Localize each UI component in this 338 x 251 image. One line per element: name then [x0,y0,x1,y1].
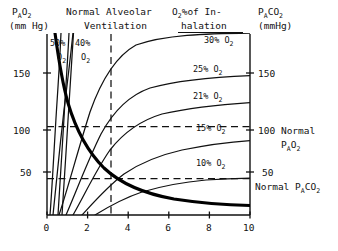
x-ticklabel-10: 10 [243,222,255,233]
label-25-percent-o2: 25% O2 [193,64,223,77]
left-ticklabel-150: 150 [13,68,30,79]
alveolar-gas-chart: Normal Alveolar Ventilation O2%of In- ha… [0,0,338,251]
curve-10-percent-o2 [95,178,250,215]
left-axis-units: (mm Hg) [9,20,49,31]
right-axis-label-paco2: PACO2 [258,6,283,20]
x-ticklabel-4: 4 [125,222,131,233]
right-annotations: 100 Normal PAO2 50 Normal PACO2 [255,125,320,195]
curve-labels: 50% O2 40% O2 30% O2 25% O2 21% O2 15% O… [50,35,234,171]
label-10-percent-o2: 10% O2 [196,158,226,171]
left-axis-title: PAO2 (mm Hg) [9,6,49,31]
right-ticklabel-150: 150 [258,68,275,79]
header-normal-alveolar: Normal Alveolar [66,6,152,17]
chart-header: Normal Alveolar Ventilation O2%of In- ha… [66,6,243,33]
label-40-percent-o2: 40% [75,38,90,48]
annotation-normal-pao2-line1: 100 Normal [258,125,315,136]
label-15-percent-o2: 15% O2 [196,123,226,136]
header-halation: halation [181,20,227,31]
header-o2-inhalation: O2%of In- [172,6,222,20]
label-21-percent-o2: 21% O2 [193,91,223,104]
header-ventilation: Ventilation [84,20,147,31]
label-50-percent-o2: 50% [50,38,65,48]
right-axis-title: PACO2 (mmHg) [258,6,292,31]
right-ticklabel-50: 50 [262,167,274,178]
right-axis-units: (mmHg) [258,20,292,31]
left-ticklabel-50: 50 [20,167,32,178]
x-ticklabel-6: 6 [165,222,171,233]
label-30-percent-o2: 30% O2 [204,35,234,48]
left-axis-ticks: 150 100 50 [13,68,51,178]
annotation-normal-paco2: Normal PACO2 [255,181,320,195]
x-ticklabel-0: 0 [44,222,50,233]
label-40-percent-o2-sub: O2 [81,52,90,65]
x-ticklabel-8: 8 [206,222,212,233]
curve-21-percent-o2 [73,103,250,216]
annotation-normal-pao2-line2: PAO2 [281,139,300,153]
x-ticklabel-2: 2 [84,222,90,233]
left-ticklabel-100: 100 [13,125,30,136]
left-axis-label-pao2: PAO2 [12,6,31,20]
